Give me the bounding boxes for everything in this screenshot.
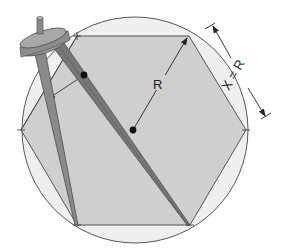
compass-pivot-dot bbox=[81, 72, 88, 79]
radius-label: R bbox=[153, 77, 162, 92]
hexagon-construction-diagram: R X = R bbox=[0, 0, 287, 248]
diagram-canvas: R X = R bbox=[0, 0, 287, 248]
center-point bbox=[130, 127, 137, 134]
